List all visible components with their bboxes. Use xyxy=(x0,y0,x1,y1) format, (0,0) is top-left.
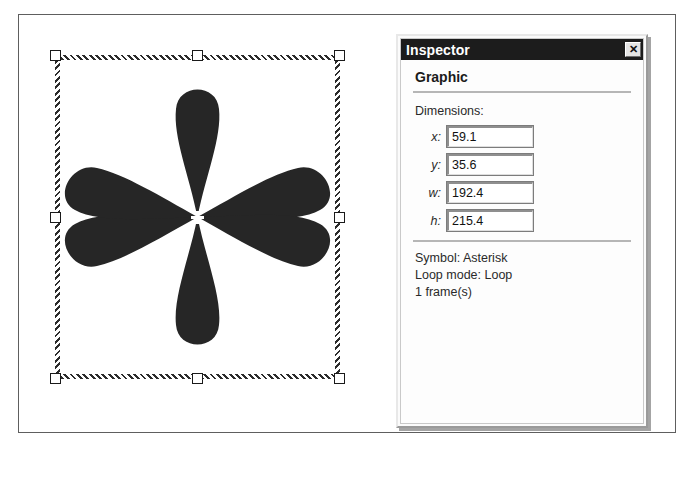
x-input[interactable]: 59.1 xyxy=(447,126,533,147)
inspector-titlebar[interactable]: Inspector ✕ xyxy=(401,39,643,60)
symbol-info-line: Symbol: Asterisk xyxy=(415,250,631,267)
resize-handle-bottom-center[interactable] xyxy=(192,373,203,384)
field-row-w: w: 192.4 xyxy=(413,182,631,203)
resize-handle-bottom-left[interactable] xyxy=(50,373,61,384)
divider-bottom xyxy=(413,240,631,242)
field-label-h: h: xyxy=(413,214,447,228)
inspector-panel-inner: Inspector ✕ Graphic Dimensions: x: 59.1 … xyxy=(400,38,644,424)
field-row-y: y: 35.6 xyxy=(413,154,631,175)
loop-mode-info-line: Loop mode: Loop xyxy=(415,267,631,284)
width-input[interactable]: 192.4 xyxy=(447,182,533,203)
resize-handle-top-left[interactable] xyxy=(50,50,61,61)
resize-handle-bottom-right[interactable] xyxy=(334,373,345,384)
center-crosshair-marker xyxy=(191,211,204,224)
y-input[interactable]: 35.6 xyxy=(447,154,533,175)
symbol-info-block: Symbol: Asterisk Loop mode: Loop 1 frame… xyxy=(415,250,631,301)
field-label-y: y: xyxy=(413,158,447,172)
canvas-area[interactable] xyxy=(19,15,379,432)
inspector-body: Graphic Dimensions: x: 59.1 y: 35.6 w: 1… xyxy=(401,60,643,423)
inspector-panel[interactable]: Inspector ✕ Graphic Dimensions: x: 59.1 … xyxy=(396,34,648,428)
field-row-h: h: 215.4 xyxy=(413,210,631,231)
selection-bounding-box[interactable] xyxy=(55,55,340,379)
section-heading: Graphic xyxy=(415,69,631,85)
divider-top xyxy=(413,91,631,93)
resize-handle-top-right[interactable] xyxy=(334,50,345,61)
application-frame: Inspector ✕ Graphic Dimensions: x: 59.1 … xyxy=(18,14,676,433)
field-label-x: x: xyxy=(413,130,447,144)
frame-count-info-line: 1 frame(s) xyxy=(415,284,631,301)
inspector-title: Inspector xyxy=(406,43,470,57)
crosshair-vertical-bar xyxy=(196,211,199,224)
resize-handle-middle-left[interactable] xyxy=(50,212,61,223)
field-row-x: x: 59.1 xyxy=(413,126,631,147)
field-label-w: w: xyxy=(413,186,447,200)
dimensions-label: Dimensions: xyxy=(415,104,631,118)
height-input[interactable]: 215.4 xyxy=(447,210,533,231)
resize-handle-middle-right[interactable] xyxy=(334,212,345,223)
close-icon[interactable]: ✕ xyxy=(625,42,641,57)
resize-handle-top-center[interactable] xyxy=(192,50,203,61)
